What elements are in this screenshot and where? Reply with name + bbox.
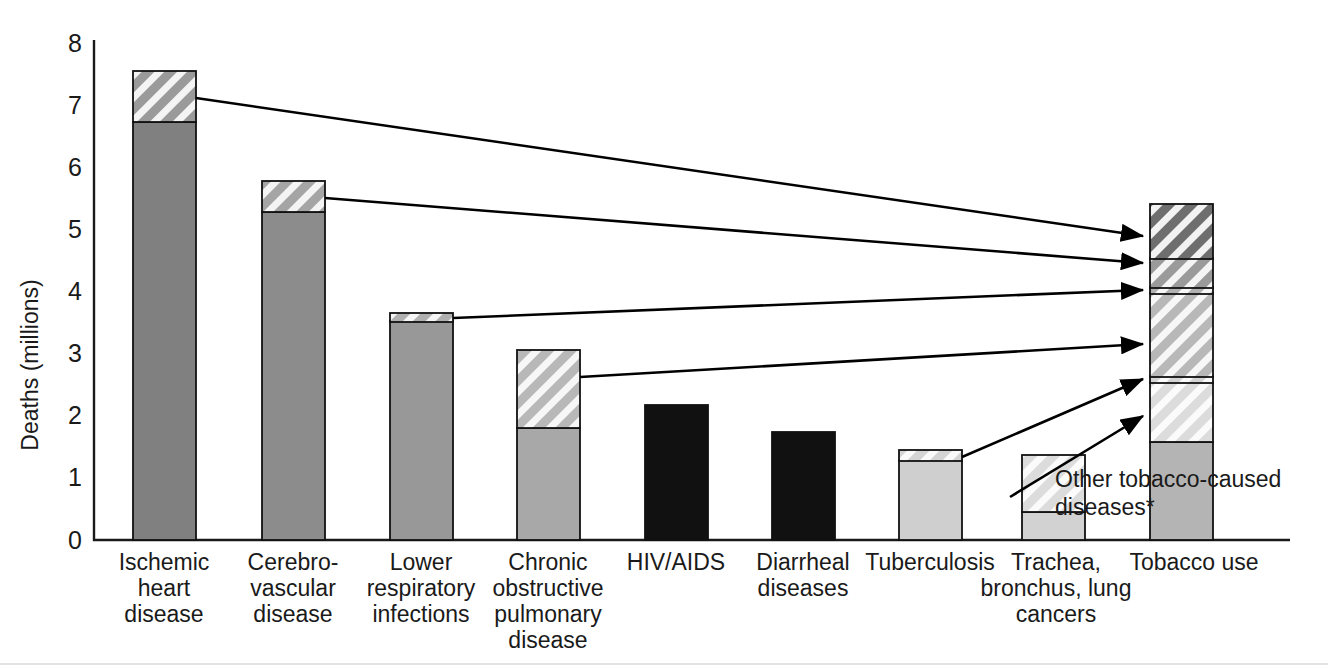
- x-label-line: heart: [138, 575, 191, 601]
- y-tick-3: 3: [68, 339, 82, 367]
- x-label-line: Tuberculosis: [865, 549, 995, 575]
- bar-ischemic-heart-disease: [133, 71, 196, 540]
- y-tick-6: 6: [68, 153, 82, 181]
- scan-artifact-line: [0, 663, 1328, 665]
- y-tick-4: 4: [68, 277, 82, 305]
- bars-group: [133, 71, 1213, 540]
- figure-root: 8 7 6 5 4 3 2 1 0 Deaths (millions): [0, 0, 1328, 666]
- bar-segment-trachea-bronchus-lung-cancers: [1150, 382, 1213, 442]
- x-label-chronic-obstructive-pulmonary-disease: Chronic obstructive pulmonary disease: [492, 549, 603, 653]
- y-tick-5: 5: [68, 215, 82, 243]
- bar-diarrheal-diseases: [772, 432, 835, 540]
- y-tick-2: 2: [68, 401, 82, 429]
- bar-segment-cerebrovascular-disease: [1150, 258, 1213, 288]
- bar-cerebrovascular-disease: [262, 181, 325, 540]
- x-label-tobacco-use: Tobacco use: [1129, 549, 1258, 575]
- x-label-cerebrovascular-disease: Cerebro- vascular disease: [248, 549, 339, 627]
- x-label-line: obstructive: [492, 575, 603, 601]
- leader-ischemic-heart-disease: [196, 98, 1143, 236]
- leader-tuberculosis: [962, 379, 1143, 457]
- x-label-line: Diarrheal: [756, 549, 849, 575]
- x-label-tuberculosis: Tuberculosis: [865, 549, 995, 575]
- bar-chronic-obstructive-pulmonary-disease: [517, 350, 580, 540]
- x-label-line: Tobacco use: [1129, 549, 1258, 575]
- leader-lower-respiratory-infections: [453, 290, 1143, 318]
- x-label-line: diseases: [758, 575, 849, 601]
- x-label-line: bronchus, lung: [981, 575, 1132, 601]
- x-label-diarrheal-diseases: Diarrheal diseases: [756, 549, 849, 601]
- bar-segment-non-tobacco: [262, 212, 325, 540]
- y-tick-1: 1: [68, 463, 82, 491]
- bar-segment-total: [772, 432, 835, 540]
- leader-cerebrovascular-disease: [325, 198, 1143, 263]
- x-label-line: HIV/AIDS: [627, 549, 725, 575]
- y-axis-title: Deaths (millions): [17, 279, 43, 450]
- annotation-line-1: Other tobacco-caused: [1055, 466, 1281, 492]
- y-tick-labels: 8 7 6 5 4 3 2 1 0: [68, 29, 82, 554]
- x-label-ischemic-heart-disease: Ischemic heart disease: [119, 549, 210, 627]
- x-label-hiv-aids: HIV/AIDS: [627, 549, 725, 575]
- x-label-line: disease: [508, 627, 587, 653]
- y-tick-0: 0: [68, 526, 82, 554]
- x-label-line: infections: [372, 601, 469, 627]
- bar-segment-total: [645, 405, 708, 540]
- bar-segment-non-tobacco: [517, 428, 580, 540]
- bar-segment-ischemic-heart-disease: [1150, 204, 1213, 259]
- x-label-line: Lower: [390, 549, 453, 575]
- x-label-line: Trachea,: [1011, 549, 1101, 575]
- x-label-line: Chronic: [508, 549, 587, 575]
- x-label-line: vascular: [250, 575, 336, 601]
- x-label-line: cancers: [1016, 601, 1097, 627]
- x-label-line: respiratory: [367, 575, 476, 601]
- bar-segment-tobacco-attributable: [899, 450, 962, 461]
- bar-lower-respiratory-infections: [390, 313, 453, 540]
- leader-chronic-obstructive-pulmonary-disease: [580, 344, 1143, 377]
- bar-tuberculosis: [899, 450, 962, 540]
- y-tick-7: 7: [68, 91, 82, 119]
- bar-segment-chronic-obstructive-pulmonary-disease: [1150, 293, 1213, 377]
- bar-chart-svg: 8 7 6 5 4 3 2 1 0 Deaths (millions): [0, 0, 1328, 666]
- bar-segment-tobacco-attributable: [133, 71, 196, 122]
- bar-segment-tobacco-attributable: [517, 350, 580, 428]
- bar-segment-non-tobacco: [390, 321, 453, 540]
- bar-segment-non-tobacco: [899, 460, 962, 540]
- x-label-line: Cerebro-: [248, 549, 339, 575]
- x-label-line: disease: [253, 601, 332, 627]
- bar-segment-tobacco-attributable: [262, 181, 325, 212]
- bar-hiv-aids: [645, 405, 708, 540]
- x-label-lower-respiratory-infections: Lower respiratory infections: [367, 549, 476, 627]
- x-label-line: disease: [124, 601, 203, 627]
- bar-segment-non-tobacco: [133, 122, 196, 540]
- annotation-line-2: diseases*: [1055, 494, 1155, 520]
- x-label-line: pulmonary: [494, 601, 602, 627]
- bar-segment-tobacco-attributable: [390, 313, 453, 322]
- x-axis-category-labels: Ischemic heart disease Cerebro- vascular…: [119, 549, 1259, 653]
- x-label-line: Ischemic: [119, 549, 210, 575]
- x-label-trachea-bronchus-lung-cancers: Trachea, bronchus, lung cancers: [981, 549, 1132, 627]
- y-tick-8: 8: [68, 29, 82, 57]
